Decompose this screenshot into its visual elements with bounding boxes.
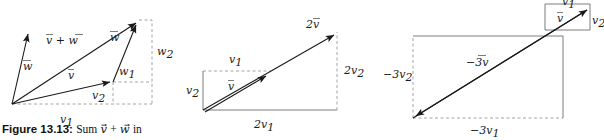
label-w1: w1 <box>119 65 135 81</box>
w2-guide-dashed <box>139 20 152 104</box>
label-neg3v2: −3v2 <box>383 68 412 84</box>
figure-board: v + w w v w v1 v2 w1 w2 <box>0 0 604 140</box>
panel-neg3v-group: −3v v v1 v2 −3v2 −3v1 <box>383 0 604 140</box>
label-v-tiny: v <box>557 12 564 25</box>
vector-2v <box>203 35 334 110</box>
label-v2: v2 <box>92 89 105 105</box>
caption-plus: + <box>110 123 117 135</box>
label-w-translated: w <box>110 31 120 44</box>
label-v: v <box>68 69 75 82</box>
figure-caption: Figure 13.13: Sum v⃗ + w⃗ in <box>2 122 142 136</box>
label-neg3v1: −3v1 <box>470 124 499 140</box>
caption-tail: in <box>133 123 142 135</box>
label-2v2: 2v2 <box>343 64 364 80</box>
vector-v-small <box>205 76 266 112</box>
panel-sum-group: v + w w v w v1 v2 w1 w2 <box>12 20 173 129</box>
vector-diagrams-svg: v + w w v w v1 v2 w1 w2 <box>0 0 604 140</box>
label-v-plus-w: v + w <box>46 34 78 47</box>
panel-2v-group: 2v v v1 v2 2v1 2v2 <box>186 18 364 134</box>
vector-neg3v <box>416 10 587 116</box>
label-v1-3: v1 <box>562 0 575 11</box>
label-neg3v: −3v <box>466 56 489 69</box>
label-w-origin: w <box>23 60 33 73</box>
caption-word-sum: Sum <box>76 123 97 135</box>
label-v2-2: v2 <box>186 84 199 100</box>
label-2v1: 2v1 <box>253 118 274 134</box>
caption-vector-v: v <box>100 122 107 136</box>
caption-vector-w: w <box>120 122 130 136</box>
label-v2-3: v2 <box>592 14 604 30</box>
caption-number: Figure 13.13: <box>2 123 73 135</box>
label-2v: 2v <box>305 18 320 31</box>
label-v1-2: v1 <box>229 53 242 69</box>
label-w2: w2 <box>157 45 173 61</box>
label-v-small: v <box>228 80 235 93</box>
